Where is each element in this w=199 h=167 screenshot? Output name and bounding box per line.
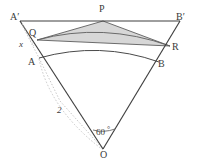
label-B-prime: B′	[176, 12, 185, 22]
label-angle-degree-symbol: °	[107, 126, 110, 134]
label-B: B	[158, 59, 165, 69]
label-R: R	[172, 42, 179, 52]
geometry-svg	[0, 0, 199, 167]
label-angle-value: 60	[96, 128, 105, 137]
label-P: P	[99, 4, 105, 14]
radius-measure-arc	[39, 59, 103, 150]
label-A-prime: A′	[10, 12, 19, 22]
shaded-region-PQR	[37, 21, 170, 46]
geometry-figure: A′ P B′ Q R A B O x 2 60 °	[0, 0, 199, 167]
label-O: O	[100, 150, 107, 160]
inner-arc-AB	[39, 50, 159, 62]
label-radius-measure: 2	[57, 106, 62, 115]
label-x-measure: x	[19, 40, 23, 49]
label-A: A	[28, 57, 35, 67]
label-Q: Q	[29, 28, 36, 38]
